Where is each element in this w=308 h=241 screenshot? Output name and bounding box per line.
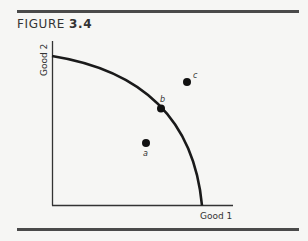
- point-c: [183, 78, 191, 86]
- ppf-chart: Good 2 Good 1 a b c: [0, 0, 308, 241]
- point-b: [157, 105, 165, 113]
- point-a: [142, 139, 150, 147]
- frontier-curve: [52, 56, 202, 206]
- point-a-label: a: [143, 149, 148, 158]
- bottom-rule: [17, 228, 299, 231]
- x-axis-label: Good 1: [200, 211, 232, 221]
- point-b-label: b: [160, 95, 165, 104]
- y-axis-label: Good 2: [39, 44, 49, 76]
- point-c-label: c: [193, 71, 198, 80]
